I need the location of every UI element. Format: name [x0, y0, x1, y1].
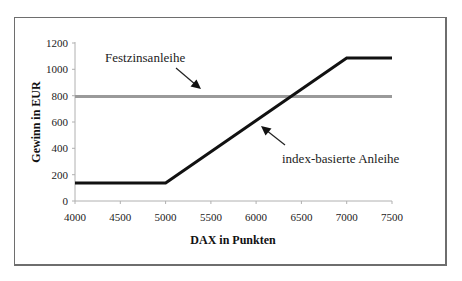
x-tick-label: 6500: [290, 211, 313, 223]
annotation-festzinsanleihe: Festzinsanleihe: [105, 50, 185, 65]
y-tick-label: 600: [52, 116, 69, 128]
arrow-icon: [176, 68, 201, 89]
y-axis-title: Gewinn in EUR: [29, 81, 43, 163]
y-tick-label: 800: [52, 90, 69, 102]
x-tick-labels: 4000 4500 5000 5500 6000 6500 7000 7500: [64, 211, 404, 223]
x-tick-label: 5000: [155, 211, 178, 223]
annotation-index-basierte-anleihe: index-basierte Anleihe: [282, 151, 400, 166]
y-tick-label: 400: [52, 142, 69, 154]
y-tick-label: 200: [52, 169, 69, 181]
y-tick-label: 1200: [46, 37, 69, 49]
y-tick-label: 1000: [46, 63, 69, 75]
arrow-icon: [261, 126, 285, 145]
x-tick-label: 4000: [64, 211, 87, 223]
x-tick-label: 7500: [381, 211, 404, 223]
x-tick-label: 6000: [245, 211, 268, 223]
x-tick-label: 4500: [109, 211, 132, 223]
x-tick-label: 5500: [200, 211, 223, 223]
x-axis-title: DAX in Punkten: [190, 233, 276, 247]
y-tick-label: 0: [63, 195, 69, 207]
y-tick-labels: 0 200 400 600 800 1000 1200: [46, 37, 69, 207]
x-tick-label: 7000: [336, 211, 359, 223]
line-chart: 0 200 400 600 800 1000 1200 4000 4500 50…: [0, 0, 462, 281]
